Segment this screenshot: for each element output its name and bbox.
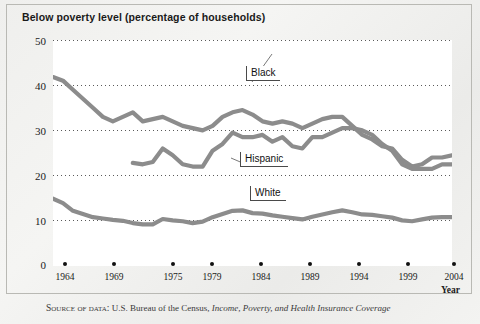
x-tick-1964: 1964 [45,272,85,282]
x-dot-2004 [452,262,456,266]
y-tick-20: 20 [22,170,46,182]
x-dot-1975 [171,262,175,266]
source-prefix: Source of data: [46,303,109,313]
poverty-level-figure: Below poverty level (percentage of house… [0,0,480,324]
x-axis-title: Year [441,285,460,295]
x-tick-1969: 1969 [94,272,134,282]
x-tick-1994: 1994 [339,272,379,282]
source-publication: Income, Poverty, and Health Insurance Co… [212,303,391,313]
y-tick-40: 40 [22,80,46,92]
x-dot-1999 [406,262,410,266]
series-label-white: White [250,186,286,201]
source-agency: U.S. Bureau of the Census, [112,303,210,313]
x-tick-2004: 2004 [434,272,474,282]
x-dot-1994 [357,262,361,266]
x-dot-1989 [308,262,312,266]
x-tick-1984: 1984 [241,272,281,282]
x-tick-1979: 1979 [192,272,232,282]
series-label-black: Black [246,66,280,81]
x-dot-1979 [210,262,214,266]
series-line-white [53,199,452,225]
x-dot-1984 [259,262,263,266]
x-dot-1969 [112,262,116,266]
y-tick-10: 10 [22,215,46,227]
x-dot-1964 [63,262,67,266]
source-note: Source of data: U.S. Bureau of the Censu… [46,303,390,313]
series-label-hispanic: Hispanic [240,152,288,167]
chart-title: Below poverty level (percentage of house… [22,11,265,23]
x-tick-1999: 1999 [388,272,428,282]
y-tick-30: 30 [22,125,46,137]
y-tick-0: 0 [22,259,46,271]
x-tick-1975: 1975 [153,272,193,282]
x-tick-1989: 1989 [290,272,330,282]
y-tick-50: 50 [22,35,46,47]
